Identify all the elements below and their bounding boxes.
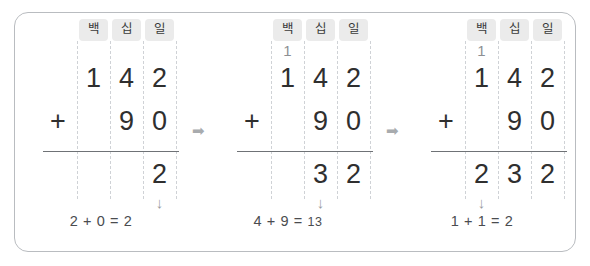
worked-example-card: 백 십 일 1 4 2 + — [14, 12, 576, 252]
sum-tens — [110, 161, 143, 188]
sum-ones: 2 — [337, 161, 370, 188]
sum-row: 2 — [77, 161, 176, 188]
addend2-ones: 0 — [337, 108, 370, 135]
addend2-tens: 9 — [110, 108, 143, 135]
carry-row: 1 — [465, 43, 564, 58]
addend1-tens: 4 — [498, 65, 531, 92]
caption-expression: 2 + 0 = — [70, 213, 124, 229]
second-addend-row: 9 0 — [271, 108, 370, 135]
arrow-right-icon: ➡ — [185, 123, 211, 138]
caption-expression: 1 + 1 = — [451, 213, 505, 229]
step-panel-tens: 백 십 일 1 1 4 2 + — [211, 13, 379, 251]
addend1-ones: 2 — [143, 65, 176, 92]
sum-tens: 3 — [304, 161, 337, 188]
addend2-hundreds — [77, 108, 110, 135]
place-header-ones: 일 — [339, 19, 368, 41]
addend1-hundreds: 1 — [465, 65, 498, 92]
sum-row: 2 3 2 — [465, 161, 564, 188]
step-panel-hundreds: 백 십 일 1 1 4 2 + — [405, 13, 573, 251]
carry-hundreds: 1 — [465, 43, 498, 58]
down-arrow-icon: ↓ — [143, 195, 176, 210]
sum-rule — [431, 151, 567, 152]
carry-tens — [304, 43, 337, 58]
plus-operator: + — [45, 108, 71, 135]
place-header-hundreds: 백 — [273, 19, 302, 41]
caption-result: 2 — [505, 213, 514, 229]
plus-operator: + — [239, 108, 265, 135]
place-value-headers: 백 십 일 — [271, 19, 370, 41]
step-caption: 4 + 9 = 13 — [211, 213, 379, 229]
addend1-hundreds: 1 — [77, 65, 110, 92]
down-arrow-icon: ↓ — [465, 195, 498, 210]
step-separator: ➡ — [185, 13, 211, 251]
addend2-hundreds — [465, 108, 498, 135]
grid-dashed-line — [564, 41, 565, 199]
place-header-tens: 십 — [306, 19, 335, 41]
first-addend-row: 1 4 2 — [271, 65, 370, 92]
addend1-tens: 4 — [304, 65, 337, 92]
sum-hundreds — [77, 161, 110, 188]
step-caption: 2 + 0 = 2 — [17, 213, 185, 229]
sum-rule — [43, 151, 179, 152]
steps-strip: 백 십 일 1 4 2 + — [15, 13, 575, 251]
sum-ones: 2 — [143, 161, 176, 188]
carry-tens — [498, 43, 531, 58]
sum-hundreds: 2 — [465, 161, 498, 188]
addend1-tens: 4 — [110, 65, 143, 92]
place-header-ones: 일 — [145, 19, 174, 41]
place-value-headers: 백 십 일 — [77, 19, 176, 41]
addend2-ones: 0 — [143, 108, 176, 135]
caption-result: 2 — [124, 213, 133, 229]
grid-dashed-line — [370, 41, 371, 199]
step-panel-ones: 백 십 일 1 4 2 + — [17, 13, 185, 251]
addend1-hundreds: 1 — [271, 65, 304, 92]
caption-expression: 4 + 9 = — [253, 213, 307, 229]
place-header-hundreds: 백 — [467, 19, 496, 41]
step-caption: 1 + 1 = 2 — [405, 213, 573, 229]
addend2-tens: 9 — [498, 108, 531, 135]
addend2-ones: 0 — [531, 108, 564, 135]
caption-result: 13 — [307, 215, 322, 229]
plus-operator: + — [433, 108, 459, 135]
addend1-ones: 2 — [337, 65, 370, 92]
down-arrow-icon: ↓ — [304, 195, 337, 210]
sum-tens: 3 — [498, 161, 531, 188]
addend2-hundreds — [271, 108, 304, 135]
carry-ones — [337, 43, 370, 58]
first-addend-row: 1 4 2 — [77, 65, 176, 92]
second-addend-row: 9 0 — [465, 108, 564, 135]
sum-ones: 2 — [531, 161, 564, 188]
addend1-ones: 2 — [531, 65, 564, 92]
carry-row: 1 — [271, 43, 370, 58]
place-header-tens: 십 — [112, 19, 141, 41]
carry-hundreds: 1 — [271, 43, 304, 58]
sum-rule — [237, 151, 373, 152]
step-separator: ➡ — [379, 13, 405, 251]
sum-row: 3 2 — [271, 161, 370, 188]
grid-dashed-line — [176, 41, 177, 199]
place-header-hundreds: 백 — [79, 19, 108, 41]
place-header-ones: 일 — [533, 19, 562, 41]
carry-ones — [531, 43, 564, 58]
second-addend-row: 9 0 — [77, 108, 176, 135]
first-addend-row: 1 4 2 — [465, 65, 564, 92]
sum-hundreds — [271, 161, 304, 188]
place-header-tens: 십 — [500, 19, 529, 41]
place-value-headers: 백 십 일 — [465, 19, 564, 41]
addend2-tens: 9 — [304, 108, 337, 135]
arrow-right-icon: ➡ — [379, 123, 405, 138]
